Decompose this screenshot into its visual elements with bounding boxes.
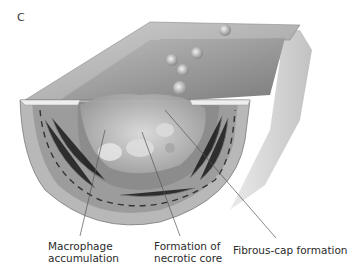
label-necrotic-core: Formation of necrotic core (154, 240, 222, 264)
artery-cross-section-illustration (0, 0, 358, 280)
label-line: Formation of (154, 240, 222, 252)
right-cut-face (190, 100, 250, 105)
label-line: accumulation (48, 252, 119, 264)
back-wall (25, 22, 300, 100)
label-macrophage-accumulation: Macrophage accumulation (48, 240, 119, 264)
label-line: necrotic core (154, 252, 222, 264)
label-line: Macrophage (48, 240, 119, 252)
label-fibrous-cap: Fibrous-cap formation (233, 244, 348, 256)
left-cut-face (20, 100, 80, 105)
